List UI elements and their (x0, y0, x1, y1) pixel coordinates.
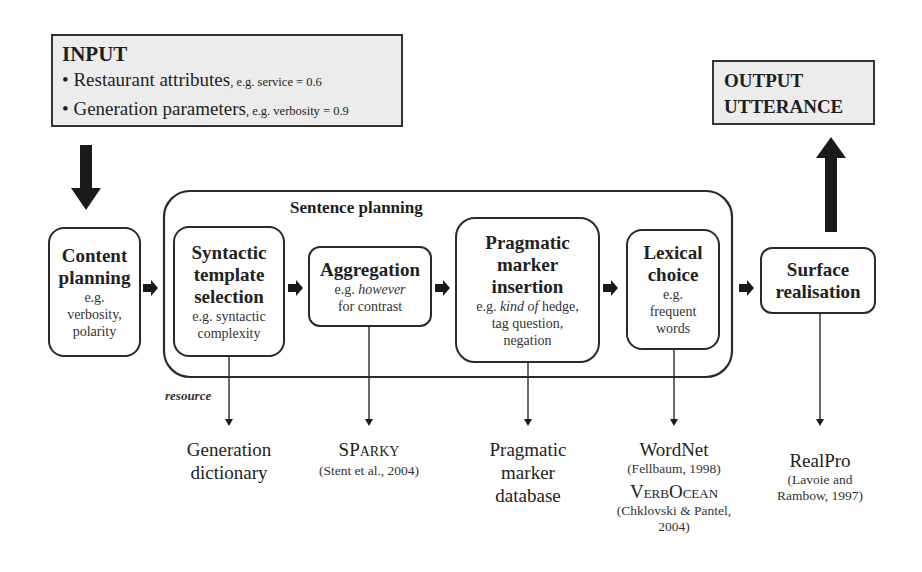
resource-verbocean: VerbOcean (Chklovski & Pantel, 2004) (604, 480, 744, 535)
resource-sparky: SPARKY (Stent et al., 2004) (304, 438, 434, 479)
input-item-restaurant: • Restaurant attributes, e.g. service = … (62, 66, 401, 96)
output-box: OUTPUT UTTERANCE (712, 60, 875, 125)
resource-generation-dictionary: Generation dictionary (169, 438, 289, 484)
output-line1: OUTPUT (724, 68, 873, 94)
resource-label: resource (165, 388, 211, 404)
input-heading: INPUT (62, 42, 401, 66)
stage-syntactic-template-selection[interactable]: Syntactic template selection e.g. syntac… (173, 226, 285, 357)
resource-realpro: RealPro (Lavoie and Rambow, 1997) (770, 449, 870, 504)
arrow-right-icon (603, 280, 618, 296)
stage-lexical-choice[interactable]: Lexical choice e.g. frequent words (626, 229, 720, 350)
arrow-right-icon (143, 280, 158, 296)
input-item-generation: • Generation parameters, e.g. verbosity … (62, 96, 401, 124)
input-down-arrow-icon (71, 145, 101, 210)
input-box: INPUT • Restaurant attributes, e.g. serv… (51, 34, 403, 127)
stage-pragmatic-marker-insertion[interactable]: Pragmatic marker insertion e.g. kind of … (455, 217, 600, 363)
resource-wordnet: WordNet (Fellbaum, 1998) (604, 438, 744, 477)
arrow-right-icon (739, 280, 754, 296)
resource-pragmatic-marker-database: Pragmatic marker database (470, 438, 586, 507)
arrow-right-icon (288, 280, 303, 296)
sentence-planning-label: Sentence planning (290, 198, 423, 218)
stage-content-planning[interactable]: Content planning e.g. verbosity, polarit… (48, 227, 141, 357)
arrow-right-icon (435, 280, 450, 296)
output-line2: UTTERANCE (724, 94, 873, 120)
stage-surface-realisation[interactable]: Surface realisation (760, 247, 876, 314)
output-up-arrow-icon (816, 137, 846, 232)
stage-aggregation[interactable]: Aggregation e.g. however for contrast (308, 246, 432, 327)
